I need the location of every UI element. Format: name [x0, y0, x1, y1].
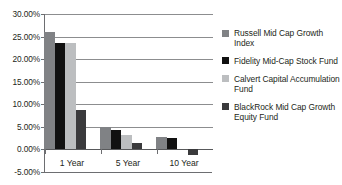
legend-swatch-icon — [222, 30, 229, 37]
bars-layer — [45, 14, 213, 172]
bar — [44, 32, 55, 149]
legend-label: Fidelity Mid-Cap Stock Fund — [234, 56, 338, 66]
bar — [76, 110, 87, 149]
bar — [111, 130, 122, 149]
y-axis-tick-label: 5.00% — [17, 122, 40, 132]
y-axis-tick-label: 20.00% — [12, 54, 40, 64]
bar — [132, 143, 143, 150]
bar — [100, 127, 111, 149]
legend-item[interactable]: Fidelity Mid-Cap Stock Fund — [222, 56, 342, 66]
legend-swatch-icon — [222, 103, 229, 110]
legend-swatch-icon — [222, 75, 229, 82]
plot-area — [44, 14, 213, 172]
bar — [167, 138, 178, 150]
bar — [55, 43, 66, 149]
legend-label: Calvert Capital Accumulation Fund — [234, 74, 342, 94]
legend-label: BlackRock Mid Cap Growth Equity Fund — [234, 102, 342, 122]
y-axis-tick-label: 25.00% — [12, 32, 40, 42]
x-axis-category-label: 5 Year — [116, 158, 140, 168]
plot-region: 30.00%25.00%20.00%15.00%10.00%5.00%0.00%… — [0, 0, 216, 185]
y-axis-tick-label: 15.00% — [12, 77, 40, 87]
x-axis-tick-mark — [157, 149, 158, 154]
bar — [188, 149, 199, 154]
chart-legend: Russell Mid Cap Growth IndexFidelity Mid… — [222, 28, 342, 129]
y-axis-tick-label: 30.00% — [12, 9, 40, 19]
x-axis-tick-mark — [45, 149, 46, 154]
y-axis-tick-label: 10.00% — [12, 99, 40, 109]
y-axis-tick-labels: 30.00%25.00%20.00%15.00%10.00%5.00%0.00%… — [0, 0, 40, 185]
bar — [156, 137, 167, 150]
x-axis-tick-mark — [101, 149, 102, 154]
y-axis-tick-label: -5.00% — [14, 167, 40, 177]
bar — [121, 135, 132, 149]
bar-chart: 30.00%25.00%20.00%15.00%10.00%5.00%0.00%… — [0, 0, 342, 185]
legend-label: Russell Mid Cap Growth Index — [234, 28, 342, 48]
x-axis-category-label: 1 Year — [60, 158, 84, 168]
legend-item[interactable]: Calvert Capital Accumulation Fund — [222, 74, 342, 94]
legend-item[interactable]: BlackRock Mid Cap Growth Equity Fund — [222, 102, 342, 122]
y-axis-tick-label: 0.00% — [17, 144, 40, 154]
legend-item[interactable]: Russell Mid Cap Growth Index — [222, 28, 342, 48]
bar — [65, 43, 76, 150]
x-axis-category-label: 10 Year — [169, 158, 198, 168]
legend-swatch-icon — [222, 57, 229, 64]
x-axis-line — [44, 172, 212, 173]
